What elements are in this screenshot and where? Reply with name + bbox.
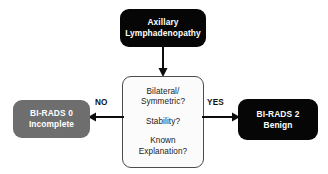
node-birads2-line-2: Benign	[264, 120, 293, 131]
decision-line-5: Explanation?	[139, 147, 188, 158]
flowchart-canvas: Axillary Lymphadenopathy Bilateral/ Symm…	[0, 0, 328, 174]
node-decision-criteria: Bilateral/ Symmetric? Stability? Known E…	[122, 76, 204, 168]
decision-criterion-3: Known Explanation?	[139, 136, 188, 157]
decision-line-2: Symmetric?	[141, 97, 185, 108]
arrow-decision-to-birads2	[202, 110, 240, 124]
arrow-decision-to-birads0	[88, 110, 124, 124]
arrow-start-to-decision	[152, 46, 174, 78]
decision-line-4: Known	[139, 136, 188, 147]
node-axillary-line-1: Axillary	[147, 17, 178, 28]
node-birads2-line-1: BI-RADS 2	[257, 109, 300, 120]
node-axillary-line-2: Lymphadenopathy	[125, 28, 201, 39]
edge-label-no: NO	[95, 98, 108, 107]
node-bi-rads-0-incomplete: BI-RADS 0 Incomplete	[13, 100, 90, 138]
decision-criterion-1: Bilateral/ Symmetric?	[141, 87, 185, 108]
decision-line-1: Bilateral/	[141, 87, 185, 98]
node-bi-rads-2-benign: BI-RADS 2 Benign	[238, 99, 318, 140]
decision-line-3: Stability?	[146, 117, 180, 128]
node-axillary-lymphadenopathy: Axillary Lymphadenopathy	[120, 9, 206, 47]
decision-criterion-2: Stability?	[146, 117, 180, 128]
edge-label-yes: YES	[207, 98, 224, 107]
node-birads0-line-2: Incomplete	[29, 119, 74, 130]
node-birads0-line-1: BI-RADS 0	[30, 108, 73, 119]
